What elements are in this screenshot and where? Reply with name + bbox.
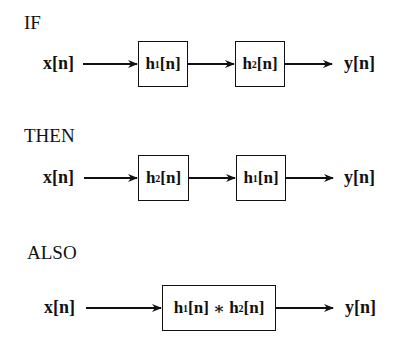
- block-base: h: [145, 54, 154, 74]
- input-signal: x[n]: [43, 167, 74, 188]
- input-signal: x[n]: [43, 53, 74, 74]
- block-base: h: [242, 54, 251, 74]
- block-arg: [n]: [258, 168, 279, 188]
- heading-if: IF: [24, 12, 41, 34]
- heading-also: ALSO: [27, 242, 77, 264]
- block-base2: h: [229, 298, 238, 318]
- block-arg: [n]: [160, 168, 181, 188]
- block-h2: h2[n]: [138, 155, 189, 201]
- block-base: h: [146, 168, 155, 188]
- output-signal: y[n]: [344, 167, 375, 188]
- output-signal: y[n]: [345, 297, 376, 318]
- input-signal: x[n]: [44, 297, 75, 318]
- output-signal: y[n]: [344, 53, 375, 74]
- block-h1: h1[n]: [138, 41, 188, 87]
- block-arg2: [n]: [244, 298, 265, 318]
- block-h1: h1[n]: [236, 155, 286, 201]
- block-arg: [n]: [160, 54, 181, 74]
- block-convolution: h1[n] ∗ h2[n]: [162, 285, 276, 331]
- convolution-operator: ∗: [209, 298, 229, 319]
- block-arg: [n]: [188, 298, 209, 318]
- block-base: h: [174, 298, 183, 318]
- block-arg: [n]: [257, 54, 278, 74]
- heading-then: THEN: [24, 125, 75, 147]
- block-h2: h2[n]: [235, 41, 285, 87]
- block-base: h: [243, 168, 252, 188]
